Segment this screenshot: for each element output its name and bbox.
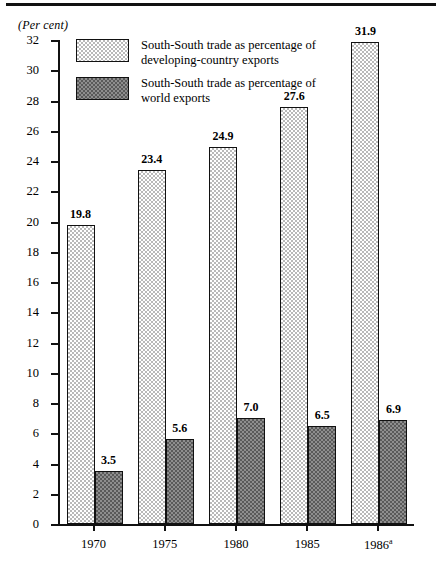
- x-tick-label: 1985: [295, 537, 320, 552]
- y-tick-label: 6: [33, 427, 39, 440]
- y-tick-label: 2: [33, 488, 39, 501]
- y-tick-label: 8: [33, 397, 39, 410]
- y-tick: [51, 494, 58, 496]
- x-tick: [164, 524, 166, 531]
- bar-value-label: 5.6: [172, 421, 187, 436]
- y-tick-label: 20: [27, 215, 40, 228]
- y-tick-label: 12: [27, 336, 40, 349]
- bar-1970-world-exports: [95, 471, 123, 524]
- y-tick-label: 24: [27, 155, 40, 168]
- y-tick: [51, 403, 58, 405]
- y-tick-label: 10: [27, 367, 40, 380]
- legend-label-developing-country-exports: South-South trade as percentage of devel…: [141, 38, 316, 67]
- dark-dotted-swatch-icon: [76, 77, 129, 100]
- y-tick-label: 18: [27, 246, 40, 259]
- bar-value-label: 24.9: [213, 129, 234, 144]
- y-tick: [51, 131, 58, 133]
- y-tick: [51, 161, 58, 163]
- bar-value-label: 6.9: [386, 402, 401, 417]
- x-tick: [377, 524, 379, 531]
- y-tick: [51, 40, 58, 42]
- top-rule: [6, 3, 436, 6]
- y-axis-line: [58, 40, 60, 524]
- bar-1975-world-exports: [166, 439, 194, 524]
- y-tick: [51, 191, 58, 193]
- light-dotted-swatch-icon: [76, 39, 129, 62]
- bar-value-label: 6.5: [315, 408, 330, 423]
- bar-value-label: 7.0: [244, 400, 259, 415]
- legend-item-world-exports: South-South trade as percentage of world…: [76, 76, 316, 105]
- chart-legend: South-South trade as percentage of devel…: [76, 38, 316, 114]
- bar-value-label: 19.8: [70, 207, 91, 222]
- y-tick-label: 32: [27, 34, 40, 47]
- y-tick: [51, 343, 58, 345]
- y-tick: [51, 70, 58, 72]
- y-tick-label: 28: [27, 94, 40, 107]
- bar-1980-developing-country-exports: [209, 147, 237, 524]
- y-tick: [51, 464, 58, 466]
- x-tick: [93, 524, 95, 531]
- y-tick: [51, 373, 58, 375]
- bar-1975-developing-country-exports: [138, 170, 166, 524]
- y-tick: [51, 312, 58, 314]
- bar-1986-world-exports: [379, 420, 407, 524]
- x-tick-label: 1986a: [364, 537, 393, 553]
- y-axis-unit-label: (Per cent): [18, 18, 68, 33]
- bar-1970-developing-country-exports: [67, 225, 95, 524]
- y-tick-label: 0: [33, 518, 39, 531]
- bar-value-label: 23.4: [141, 152, 162, 167]
- y-tick: [51, 282, 58, 284]
- y-tick: [51, 524, 58, 526]
- y-tick-label: 22: [27, 185, 40, 198]
- bar-value-label: 3.5: [101, 453, 116, 468]
- x-tick-label: 1980: [224, 537, 249, 552]
- bar-value-label: 31.9: [355, 24, 376, 39]
- y-tick-label: 16: [27, 276, 40, 289]
- bar-1985-developing-country-exports: [280, 107, 308, 524]
- legend-label-world-exports: South-South trade as percentage of world…: [141, 76, 316, 105]
- y-tick: [51, 101, 58, 103]
- bar-1985-world-exports: [308, 426, 336, 524]
- y-tick-label: 4: [33, 457, 39, 470]
- y-tick-label: 30: [27, 64, 40, 77]
- x-tick: [306, 524, 308, 531]
- y-tick: [51, 433, 58, 435]
- x-tick-label-superscript: a: [389, 537, 393, 546]
- x-tick: [235, 524, 237, 531]
- y-tick: [51, 252, 58, 254]
- legend-item-developing-country-exports: South-South trade as percentage of devel…: [76, 38, 316, 67]
- x-tick-label: 1970: [81, 537, 106, 552]
- y-tick-label: 26: [27, 125, 40, 138]
- x-tick-label: 1975: [152, 537, 177, 552]
- y-tick: [51, 222, 58, 224]
- bar-1980-world-exports: [237, 418, 265, 524]
- bar-1986-developing-country-exports: [351, 42, 379, 524]
- y-tick-label: 14: [27, 306, 40, 319]
